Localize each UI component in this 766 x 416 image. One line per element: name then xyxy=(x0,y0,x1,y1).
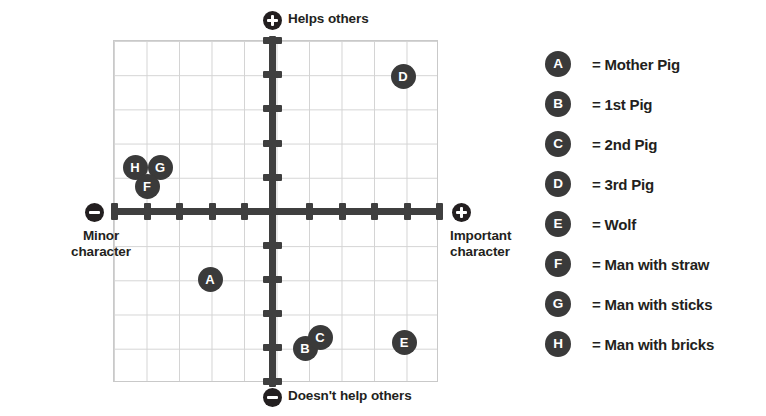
legend-label-g: = Man with sticks xyxy=(592,296,712,313)
legend-marker-a: A xyxy=(545,51,571,77)
x-axis-tick xyxy=(404,203,411,220)
axis-label-right: Important character xyxy=(450,228,542,260)
plus-circle-icon xyxy=(452,203,471,222)
x-axis-tick xyxy=(371,203,378,220)
x-axis-tick xyxy=(241,203,248,220)
x-axis-tick xyxy=(306,203,313,220)
legend-item-h[interactable]: H = Man with bricks xyxy=(545,324,760,364)
y-axis-tick xyxy=(263,71,282,78)
legend-item-a[interactable]: A = Mother Pig xyxy=(545,44,760,84)
y-axis-tick xyxy=(263,276,282,283)
chart-panel: Helps others Doesn't help others Minor c… xyxy=(0,0,520,416)
data-point-d[interactable]: D xyxy=(391,64,416,89)
x-axis-tick xyxy=(209,203,216,220)
x-axis-line xyxy=(111,208,442,215)
data-point-a[interactable]: A xyxy=(198,267,223,292)
x-axis-tick xyxy=(111,203,118,220)
legend-item-b[interactable]: B = 1st Pig xyxy=(545,84,760,124)
x-axis-tick xyxy=(144,203,151,220)
data-point-e[interactable]: E xyxy=(392,330,417,355)
y-axis-tick xyxy=(263,105,282,112)
data-point-f[interactable]: F xyxy=(135,174,160,199)
plus-circle-icon xyxy=(263,11,282,30)
legend-marker-e: E xyxy=(545,211,571,237)
axis-label-top: Helps others xyxy=(288,11,369,27)
y-axis-tick xyxy=(263,37,282,44)
legend-label-h: = Man with bricks xyxy=(592,336,714,353)
y-axis-tick xyxy=(263,174,282,181)
y-axis-tick xyxy=(263,378,282,385)
x-axis-tick xyxy=(176,203,183,220)
legend-item-f[interactable]: F = Man with straw xyxy=(545,244,760,284)
legend-marker-h: H xyxy=(545,331,571,357)
minus-circle-icon xyxy=(85,203,104,222)
legend-marker-c: C xyxy=(545,131,571,157)
legend-marker-g: G xyxy=(545,291,571,317)
x-axis-tick xyxy=(339,203,346,220)
y-axis-line xyxy=(269,36,276,387)
y-axis-tick xyxy=(263,344,282,351)
axis-label-bottom: Doesn't help others xyxy=(288,388,412,404)
legend: A = Mother Pig B = 1st Pig C = 2nd Pig D… xyxy=(545,44,760,364)
legend-marker-f: F xyxy=(545,251,571,277)
legend-label-c: = 2nd Pig xyxy=(592,136,657,153)
y-axis-tick xyxy=(263,242,282,249)
legend-marker-d: D xyxy=(545,171,571,197)
legend-item-g[interactable]: G = Man with sticks xyxy=(545,284,760,324)
legend-item-d[interactable]: D = 3rd Pig xyxy=(545,164,760,204)
minus-circle-icon xyxy=(263,388,282,407)
legend-label-e: = Wolf xyxy=(592,216,636,233)
y-axis-tick xyxy=(263,310,282,317)
x-axis-tick xyxy=(436,203,443,220)
character-mapping-figure: Helps others Doesn't help others Minor c… xyxy=(0,0,766,416)
y-axis-tick xyxy=(263,140,282,147)
legend-item-e[interactable]: E = Wolf xyxy=(545,204,760,244)
legend-label-a: = Mother Pig xyxy=(592,56,680,73)
axis-label-left: Minor character xyxy=(60,228,142,260)
legend-label-f: = Man with straw xyxy=(592,256,709,273)
data-point-c[interactable]: C xyxy=(308,325,333,350)
legend-marker-b: B xyxy=(545,91,571,117)
legend-item-c[interactable]: C = 2nd Pig xyxy=(545,124,760,164)
legend-label-b: = 1st Pig xyxy=(592,96,652,113)
legend-label-d: = 3rd Pig xyxy=(592,176,654,193)
